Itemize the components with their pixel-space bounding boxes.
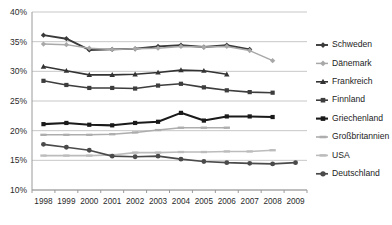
data-point bbox=[133, 46, 138, 51]
y-tick-label: 40% bbox=[10, 7, 27, 17]
legend-item-frankreich[interactable]: Frankreich bbox=[316, 76, 373, 86]
data-point bbox=[179, 157, 184, 162]
series-line bbox=[43, 144, 295, 164]
data-point bbox=[86, 134, 92, 136]
series-finnland bbox=[41, 79, 274, 95]
data-point bbox=[132, 151, 138, 153]
x-tick-label: 2002 bbox=[126, 197, 145, 206]
x-tick-label: 2001 bbox=[103, 197, 122, 206]
legend-item-label: Frankreich bbox=[332, 76, 373, 86]
legend-item-label: Griechenland bbox=[332, 113, 383, 123]
legend-swatch-marker bbox=[320, 154, 327, 157]
series-griechenland bbox=[41, 111, 274, 128]
data-point bbox=[87, 123, 91, 127]
data-point bbox=[202, 85, 206, 89]
legend-item-deutschland[interactable]: Deutschland bbox=[316, 168, 380, 178]
data-point bbox=[201, 159, 206, 164]
legend-item-finnland[interactable]: Finnland bbox=[316, 94, 365, 104]
legend-item-d-nemark[interactable]: Dänemark bbox=[316, 58, 372, 68]
data-point bbox=[293, 160, 298, 165]
x-axis-tick-labels: 1998199920002001200220032004200520062007… bbox=[34, 197, 305, 206]
legend-item-griechenland[interactable]: Griechenland bbox=[316, 113, 383, 123]
data-point bbox=[63, 154, 69, 156]
series-deutschland bbox=[41, 142, 298, 166]
x-tick-label: 2008 bbox=[264, 197, 283, 206]
data-point bbox=[87, 148, 92, 153]
x-tick-label: 1999 bbox=[57, 197, 76, 206]
data-point bbox=[41, 122, 45, 126]
data-point bbox=[270, 58, 275, 63]
x-tick-label: 2005 bbox=[195, 197, 214, 206]
legend-swatch-marker bbox=[320, 171, 325, 176]
y-tick-label: 15% bbox=[10, 155, 27, 165]
data-point bbox=[64, 121, 68, 125]
legend-item-label: USA bbox=[332, 150, 350, 160]
legend-item-gro-britannien[interactable]: Großbritannien bbox=[316, 131, 390, 141]
y-tick-label: 35% bbox=[10, 37, 27, 47]
data-point bbox=[179, 111, 183, 115]
data-point bbox=[247, 150, 253, 152]
data-point bbox=[40, 154, 46, 156]
data-point bbox=[224, 150, 230, 152]
data-point bbox=[269, 149, 275, 151]
legend-swatch-marker bbox=[321, 98, 326, 103]
data-series-layer bbox=[40, 33, 298, 167]
series-frankreich bbox=[41, 64, 230, 77]
x-tick-label: 2007 bbox=[241, 197, 260, 206]
data-point bbox=[110, 47, 115, 52]
x-tick-label: 2000 bbox=[80, 197, 99, 206]
data-point bbox=[133, 154, 138, 159]
legend-swatch-marker bbox=[320, 61, 326, 67]
data-point bbox=[41, 79, 45, 83]
data-point bbox=[110, 154, 115, 159]
data-point bbox=[248, 90, 252, 94]
series-line bbox=[43, 128, 226, 135]
data-point bbox=[225, 88, 229, 92]
data-point bbox=[156, 120, 160, 124]
x-tick-label: 2006 bbox=[218, 197, 237, 206]
data-point bbox=[248, 114, 252, 118]
data-point bbox=[271, 91, 275, 95]
data-point bbox=[270, 161, 275, 166]
data-point bbox=[87, 86, 91, 90]
data-point bbox=[110, 123, 114, 127]
legend-item-schweden[interactable]: Schweden bbox=[316, 39, 372, 49]
x-tick-label: 2004 bbox=[172, 197, 191, 206]
legend-item-label: Dänemark bbox=[332, 58, 372, 68]
legend-item-label: Finnland bbox=[332, 94, 365, 104]
data-point bbox=[41, 142, 46, 147]
data-point bbox=[64, 42, 69, 47]
data-point bbox=[63, 134, 69, 136]
data-point bbox=[132, 131, 138, 133]
data-point bbox=[271, 115, 275, 119]
data-point bbox=[178, 151, 184, 153]
data-point bbox=[247, 161, 252, 166]
legend-swatch-marker bbox=[320, 42, 326, 48]
y-tick-label: 25% bbox=[10, 96, 27, 106]
data-point bbox=[41, 41, 46, 46]
data-point bbox=[201, 151, 207, 153]
data-point bbox=[201, 127, 207, 129]
x-tick-label: 2009 bbox=[286, 197, 305, 206]
data-point bbox=[155, 151, 161, 153]
data-point bbox=[224, 127, 230, 129]
legend-swatch-marker bbox=[321, 116, 326, 121]
data-point bbox=[64, 83, 68, 87]
data-point bbox=[155, 129, 161, 131]
data-point bbox=[110, 86, 114, 90]
line-chart: 10%15%20%25%30%35%40% 199819992000200120… bbox=[0, 0, 392, 225]
legend-item-label: Deutschland bbox=[332, 168, 380, 178]
series-schweden bbox=[41, 33, 253, 53]
data-point bbox=[156, 83, 160, 87]
data-point bbox=[109, 133, 115, 135]
data-point bbox=[201, 44, 206, 49]
axes bbox=[32, 12, 307, 193]
data-point bbox=[179, 82, 183, 86]
data-point bbox=[156, 154, 161, 159]
y-axis-tick-labels: 10%15%20%25%30%35%40% bbox=[10, 7, 27, 195]
data-point bbox=[133, 86, 137, 90]
legend-item-usa[interactable]: USA bbox=[316, 150, 350, 160]
legend-swatch-marker bbox=[320, 136, 327, 139]
y-tick-label: 20% bbox=[10, 126, 27, 136]
y-tick-label: 30% bbox=[10, 66, 27, 76]
